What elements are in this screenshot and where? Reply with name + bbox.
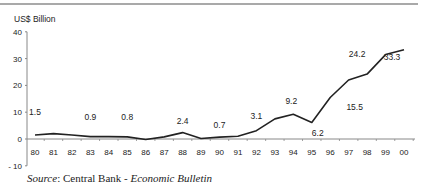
data-label: 0.9 <box>84 112 96 122</box>
data-label: 6.2 <box>312 128 324 138</box>
data-labels: 1.50.90.82.40.73.19.26.215.524.233.3 <box>29 49 400 138</box>
x-tick-label: 99 <box>381 148 390 157</box>
data-label: 3.1 <box>250 111 262 121</box>
x-axis: 8081828384858687888990919293949596979899… <box>27 139 415 157</box>
x-tick-label: 00 <box>400 148 409 157</box>
data-label: 1.5 <box>29 107 41 117</box>
y-tick-label: 20 <box>13 81 22 90</box>
x-tick-label: 92 <box>252 148 261 157</box>
x-tick-label: 94 <box>289 148 298 157</box>
x-tick-label: 91 <box>233 148 242 157</box>
x-tick-label: 82 <box>67 148 76 157</box>
x-tick-label: 88 <box>178 148 187 157</box>
x-tick-label: 95 <box>307 148 316 157</box>
data-label: 24.2 <box>349 49 366 59</box>
data-label: 33.3 <box>384 52 401 62</box>
x-tick-label: 89 <box>197 148 206 157</box>
source-prefix: Source <box>27 172 57 184</box>
data-label: 0.8 <box>121 112 133 122</box>
data-label: 2.4 <box>177 116 189 126</box>
x-tick-label: 85 <box>123 148 132 157</box>
source-note: Source: Central Bank - Economic Bulletin <box>27 172 212 184</box>
x-tick-label: 80 <box>31 148 40 157</box>
y-tick-label: 30 <box>13 55 22 64</box>
x-tick-label: 90 <box>215 148 224 157</box>
x-tick-label: 86 <box>141 148 150 157</box>
y-tick-label: 10 <box>13 108 22 117</box>
x-tick-label: 93 <box>270 148 279 157</box>
y-tick-label: - 10 <box>8 162 22 171</box>
x-tick-label: 98 <box>363 148 372 157</box>
x-tick-label: 97 <box>344 148 353 157</box>
data-label: 0.7 <box>214 120 226 130</box>
source-title: Economic Bulletin <box>130 172 212 184</box>
x-tick-label: 96 <box>326 148 335 157</box>
x-tick-label: 84 <box>104 148 113 157</box>
data-label: 9.2 <box>285 96 297 106</box>
line-chart: US$ Billion 403020100- 10 80818283848586… <box>0 0 425 188</box>
y-tick-label: 0 <box>18 135 23 144</box>
y-tick-label: 40 <box>13 28 22 37</box>
x-tick-label: 87 <box>160 148 169 157</box>
x-tick-label: 83 <box>86 148 95 157</box>
source-org: : Central Bank - <box>57 172 130 184</box>
y-axis: 403020100- 10 <box>8 28 27 171</box>
data-label: 15.5 <box>346 102 363 112</box>
x-tick-label: 81 <box>49 148 58 157</box>
y-axis-title: US$ Billion <box>14 14 56 24</box>
